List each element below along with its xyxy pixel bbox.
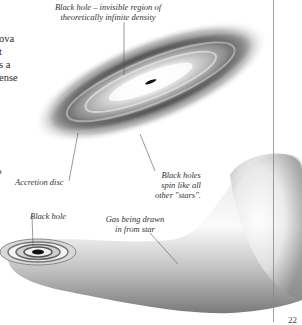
black-hole-rings-illustration — [0, 239, 76, 265]
body-text-line: s a — [0, 58, 18, 71]
body-text-line: t — [0, 45, 18, 58]
label-gas-drawn: Gas being drawn in from star — [95, 214, 175, 234]
body-text-line: ova — [0, 32, 18, 45]
page-number: 22 — [288, 315, 297, 325]
accretion-disc-illustration — [19, 0, 282, 168]
label-black-hole-bottom: Black hole — [30, 211, 66, 221]
label-black-holes-spin: Black holes spin like all other "stars". — [155, 170, 201, 200]
label-black-hole-top: Black hole – invisible region of theoret… — [28, 2, 188, 22]
body-text-orphan: o — [0, 165, 2, 178]
body-text-line: ense — [0, 71, 18, 84]
label-accretion-disc: Accretion disc — [15, 177, 64, 187]
body-text-fragment: ova t s a ense — [0, 32, 18, 84]
